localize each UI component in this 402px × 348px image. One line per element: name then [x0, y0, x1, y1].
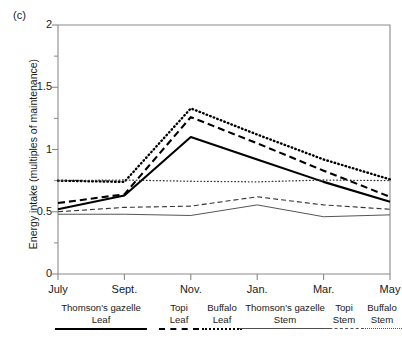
legend-entry-animal: Buffalo: [362, 302, 402, 314]
series-line: [58, 117, 390, 203]
legend-entry-animal: Topi: [159, 302, 199, 314]
x-tick-label: Jan.: [247, 283, 268, 295]
x-tick-label: May: [380, 283, 401, 295]
legend-entry-animal: Thomson's gazelle: [239, 302, 331, 314]
x-tick-label: Nov.: [180, 283, 202, 295]
legend-entry: Thomson's gazelleLeaf: [55, 302, 147, 335]
series-line: [58, 137, 390, 209]
chart-plot-area: [0, 0, 402, 348]
legend-entry: BuffaloLeaf: [202, 302, 242, 335]
legend-entry-part: Leaf: [159, 314, 199, 326]
x-tick-label: Mar.: [313, 283, 334, 295]
legend-swatch-solid-thick-icon: [55, 328, 147, 335]
legend-swatch-dashed-thick-icon: [159, 328, 199, 335]
legend-entry-part: Leaf: [202, 314, 242, 326]
legend-entry-animal: Buffalo: [202, 302, 242, 314]
legend-entry-animal: Thomson's gazelle: [55, 302, 147, 314]
legend-entry-part: Stem: [239, 314, 331, 326]
series-line: [58, 205, 390, 217]
legend-entry: BuffaloStem: [362, 302, 402, 334]
legend-entry-part: Stem: [362, 314, 402, 326]
legend-swatch-dotted-thick-icon: [202, 328, 242, 335]
axis-frame: [58, 25, 390, 274]
series-line: [58, 108, 390, 181]
legend-swatch-dashed-thin-icon: [324, 328, 364, 334]
legend-swatch-solid-thin-icon: [239, 328, 331, 334]
figure-panel-c: (c) Energy intake (multiples of maintena…: [0, 0, 402, 348]
legend-entry: TopiLeaf: [159, 302, 199, 335]
legend-entry-part: Stem: [324, 314, 364, 326]
legend-swatch-dotted-thin-icon: [362, 328, 402, 334]
legend-entry-part: Leaf: [55, 314, 147, 326]
legend-entry-animal: Topi: [324, 302, 364, 314]
legend-entry: TopiStem: [324, 302, 364, 334]
legend-entry: Thomson's gazelleStem: [239, 302, 331, 334]
chart-legend: Thomson's gazelleLeafTopiLeafBuffaloLeaf…: [0, 300, 402, 348]
x-tick-label: Sept.: [112, 283, 138, 295]
x-tick-label: July: [48, 283, 68, 295]
